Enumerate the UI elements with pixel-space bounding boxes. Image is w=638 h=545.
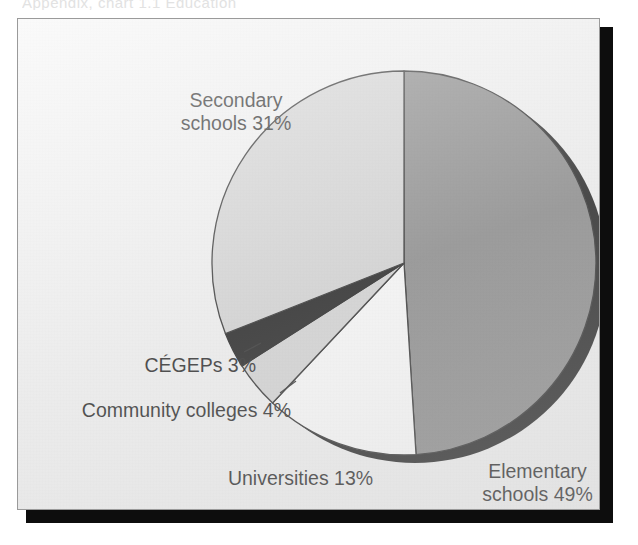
pie-label-cegeps: CÉGEPs 3% <box>96 354 256 377</box>
pie-label-secondary-schools-line2: schools 31% <box>141 112 331 135</box>
pie-label-universities: Universities 13% <box>193 467 408 490</box>
pie-label-elementary-schools-line2: schools 49% <box>455 483 600 506</box>
pie-label-community-colleges: Community colleges 4% <box>26 399 291 422</box>
pie-slice-elementary-schools[interactable]: Elementary schools 49% <box>404 71 596 455</box>
pie-label-community-colleges-line1: Community colleges 4% <box>26 399 291 422</box>
pie-label-universities-line1: Universities 13% <box>193 467 408 490</box>
chart-frame: Elementary schools 49%Universities 13%Co… <box>17 18 600 510</box>
pie-label-secondary-schools: Secondary schools 31% <box>141 89 331 135</box>
top-caption: Appendix, chart 1.1 Education <box>22 0 322 10</box>
pie-label-secondary-schools-line1: Secondary <box>141 89 331 112</box>
pie-label-elementary-schools-line1: Elementary <box>455 460 600 483</box>
pie-label-cegeps-line1: CÉGEPs 3% <box>96 354 256 377</box>
pie-label-elementary-schools: Elementary schools 49% <box>455 460 600 506</box>
